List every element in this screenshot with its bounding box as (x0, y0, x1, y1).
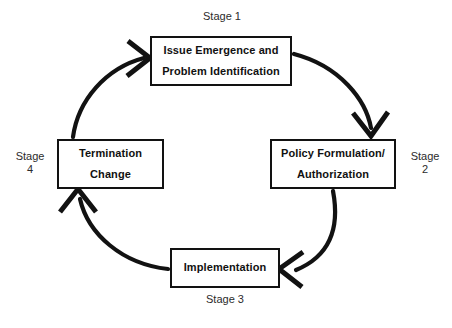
stage-label-4: Stage 4 (7, 150, 53, 175)
stage-box-policy-formulation[interactable]: Policy Formulation/ Authorization (270, 139, 396, 189)
stage-box-implementation[interactable]: Implementation (170, 248, 280, 288)
box-issue-line-1: Issue Emergence and (163, 45, 278, 57)
box-termination-line-1: Termination (79, 148, 142, 160)
box-issue-line-2: Problem Identification (162, 66, 280, 78)
policy-cycle-diagram: Issue Emergence and Problem Identificati… (0, 0, 452, 328)
stage-label-2: Stage 2 (402, 150, 448, 175)
arrow-policy-to-implementation (279, 191, 335, 287)
stage-box-termination-change[interactable]: Termination Change (57, 139, 164, 189)
box-policy-line-2: Authorization (297, 169, 369, 181)
box-termination-line-2: Change (90, 169, 131, 181)
arrow-implementation-to-termination (60, 189, 168, 269)
box-policy-line-1: Policy Formulation/ (281, 148, 385, 160)
stage-label-1: Stage 1 (172, 10, 272, 23)
arrow-termination-to-issue (73, 41, 150, 137)
stage-box-issue-emergence[interactable]: Issue Emergence and Problem Identificati… (150, 36, 292, 86)
box-implementation-line-1: Implementation (184, 262, 267, 274)
stage-label-3: Stage 3 (175, 293, 275, 306)
arrow-issue-to-policy (294, 54, 388, 136)
